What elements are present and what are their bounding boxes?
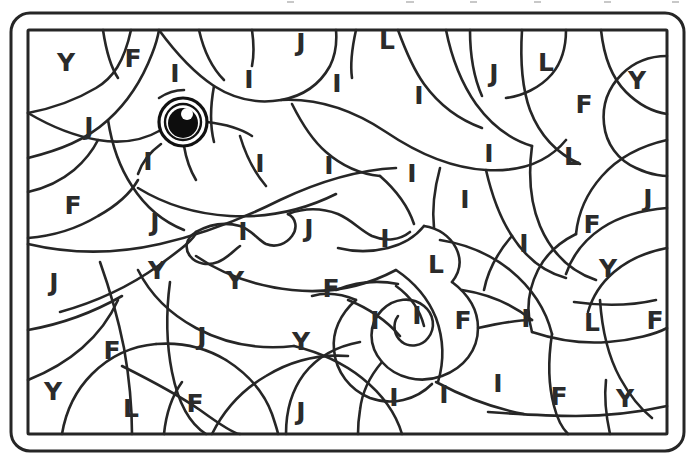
worksheet-page: YFIIJILIJLFYJILIIIIFJIJIIFJIJYYFLFJYIIFI… <box>0 0 695 465</box>
outer-rounded-frame <box>11 13 684 451</box>
inner-rectangular-frame <box>28 30 667 434</box>
coloring-artboard <box>0 0 695 465</box>
puzzle-region-lines <box>28 30 667 434</box>
chameleon-eye <box>159 98 207 146</box>
eye-highlight <box>181 108 193 120</box>
